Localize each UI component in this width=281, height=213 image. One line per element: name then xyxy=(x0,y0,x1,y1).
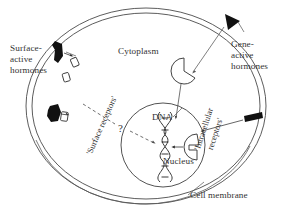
diagram-canvas xyxy=(0,0,281,213)
surface-receptor-site-1 xyxy=(70,57,79,67)
dashed-pathway-arrowhead xyxy=(152,141,156,144)
surface-active-hormone-marker-2 xyxy=(47,104,61,122)
cell-membrane-outline xyxy=(26,8,266,204)
label-cytoplasm: Cytoplasm xyxy=(118,46,159,57)
label-nucleus: Nucleus xyxy=(163,156,194,167)
intracellular-receptor-cytoplasm xyxy=(171,58,195,84)
cell-signalling-figure: Cytoplasm DNA Nucleus Cell membrane Surf… xyxy=(0,0,281,213)
surface-receptor-site-2 xyxy=(62,72,71,82)
leader-gene-active-hormones xyxy=(238,22,244,32)
arrow-nuclear-receptor-to-dna xyxy=(171,146,183,149)
label-surface-active-hormones: Surface- active hormones xyxy=(10,43,47,76)
label-cell-membrane: Cell membrane xyxy=(190,190,248,201)
label-question-mark: ? xyxy=(118,122,123,134)
label-dna: DNA xyxy=(152,112,172,123)
arrow-gene-hormone-1 xyxy=(192,27,224,74)
label-gene-active-hormones: Gene- active hormones xyxy=(231,39,268,72)
gene-active-hormone-marker-1 xyxy=(225,14,240,30)
surface-receptor-site-3 xyxy=(60,112,68,122)
gene-active-hormone-marker-2 xyxy=(244,112,263,122)
